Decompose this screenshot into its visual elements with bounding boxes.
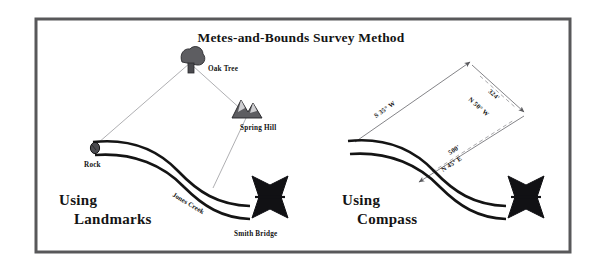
figure-title: Metes-and-Bounds Survey Method: [197, 30, 404, 45]
rock-icon: [90, 142, 99, 153]
figure-root: Metes-and-Bounds Survey Method Jones Cre…: [0, 0, 602, 270]
oak-tree-label: Oak Tree: [208, 65, 238, 73]
survey-figure: Metes-and-Bounds Survey Method Jones Cre…: [0, 0, 602, 270]
smith-bridge-label: Smith Bridge: [234, 230, 277, 238]
right-caption-line1: Using: [342, 192, 380, 208]
left-caption-line2: Landmarks: [74, 211, 152, 227]
spring-hill-label: Spring Hill: [240, 124, 276, 132]
right-caption-line2: Compass: [357, 211, 417, 227]
left-caption-line1: Using: [59, 192, 97, 208]
rock-label: Rock: [84, 161, 101, 169]
